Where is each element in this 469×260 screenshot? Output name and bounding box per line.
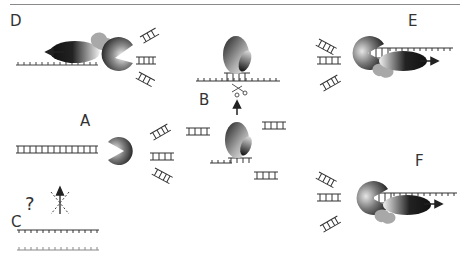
- dna-fragments: [316, 39, 341, 91]
- panel-c: [17, 187, 99, 250]
- panel-f: [316, 172, 457, 232]
- panel-e: [316, 36, 453, 91]
- exonuclease-pacman: [108, 137, 133, 165]
- blocked-arrow-icon: [57, 187, 64, 214]
- panel-d: [16, 28, 159, 87]
- helicase-oval: [383, 195, 431, 215]
- dna-fragments: [136, 28, 159, 87]
- dna-fragments: [316, 172, 341, 232]
- dna-fragments: [150, 124, 174, 184]
- arrow-up-icon: [234, 101, 241, 115]
- scissors-icon: [232, 84, 247, 97]
- diagram-canvas: [0, 0, 469, 260]
- panel-b: [186, 36, 286, 179]
- helicase-oval: [379, 51, 427, 71]
- panel-a: [16, 124, 174, 184]
